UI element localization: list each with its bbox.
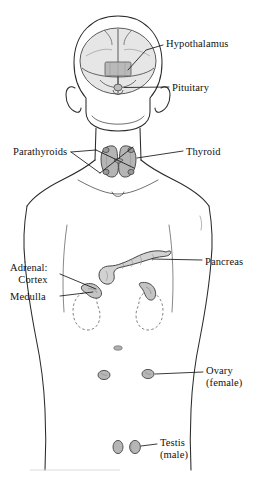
leader-thyroid — [137, 151, 183, 158]
testes — [113, 440, 140, 453]
navel — [114, 346, 122, 350]
leader-testis — [141, 444, 157, 446]
label-hypothalamus: Hypothalamus — [166, 38, 228, 50]
label-thyroid: Thyroid — [186, 146, 221, 158]
label-testis-group: Testis (male) — [160, 437, 188, 460]
leader-parathyroid-upper — [71, 150, 96, 152]
pancreas — [99, 251, 171, 284]
label-ovary-group: Ovary (female) — [206, 365, 242, 388]
label-adrenal-cortex: Cortex — [10, 274, 48, 286]
endocrine-system-figure: Hypothalamus Pituitary Thyroid Parathyro… — [0, 0, 254, 481]
adrenal-glands — [81, 282, 155, 300]
leader-pituitary — [124, 87, 169, 88]
label-ovary: Ovary — [206, 365, 233, 376]
leader-ovary — [155, 372, 203, 374]
label-parathyroids: Parathyroids — [13, 146, 67, 158]
label-testis-qualifier: (male) — [160, 449, 188, 461]
leader-adrenal-cortex — [60, 274, 96, 289]
label-pituitary: Pituitary — [172, 82, 209, 94]
leader-lines — [60, 45, 203, 446]
leader-pancreas — [152, 259, 202, 260]
label-adrenal-medulla: Medulla — [10, 291, 46, 303]
label-pancreas: Pancreas — [205, 256, 243, 268]
label-adrenal-heading: Adrenal: — [10, 262, 48, 273]
ovaries — [98, 369, 154, 379]
hypothalamus-gland — [105, 62, 131, 76]
label-adrenal-group: Adrenal: Cortex — [10, 262, 48, 285]
anatomy-illustration — [0, 0, 254, 481]
label-ovary-qualifier: (female) — [206, 377, 242, 389]
label-testis: Testis — [160, 437, 185, 448]
